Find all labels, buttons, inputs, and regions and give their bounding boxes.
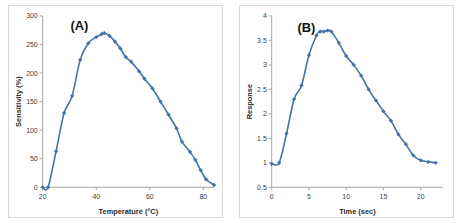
panel-b-frame: 0.511.522.533.5405101520Time (sec)Respon… xyxy=(239,5,454,218)
y-tick-label: 0.5 xyxy=(257,184,267,191)
x-tick-label: 80 xyxy=(200,193,208,200)
x-tick-label: 10 xyxy=(342,193,350,200)
x-axis-title: Time (sec) xyxy=(339,207,376,216)
data-point-marker xyxy=(285,132,289,136)
data-point-marker xyxy=(62,111,66,115)
data-point-marker xyxy=(78,58,82,62)
x-tick-label: 20 xyxy=(39,193,47,200)
y-tick-label: 50 xyxy=(30,155,38,162)
panel-a-frame: 05010015020025030020406080Temperature (°… xyxy=(8,5,223,218)
y-tick-label: 0 xyxy=(34,184,38,191)
series-line xyxy=(43,33,214,190)
y-tick-label: 4 xyxy=(263,12,267,19)
series-line xyxy=(272,30,436,165)
y-tick-label: 3 xyxy=(263,61,267,68)
y-tick-label: 300 xyxy=(26,12,38,19)
y-tick-label: 100 xyxy=(26,127,38,134)
x-tick-label: 15 xyxy=(380,193,388,200)
y-tick-label: 1.5 xyxy=(257,135,267,142)
data-point-marker xyxy=(307,53,311,57)
y-tick-label: 200 xyxy=(26,70,38,77)
x-tick-label: 20 xyxy=(417,193,425,200)
chart-a-plot: 05010015020025030020406080Temperature (°… xyxy=(9,6,222,217)
y-tick-label: 3.5 xyxy=(257,37,267,44)
y-tick-label: 150 xyxy=(26,98,38,105)
data-point-marker xyxy=(434,161,438,165)
data-point-marker xyxy=(54,149,58,153)
y-tick-label: 1 xyxy=(263,159,267,166)
panel-label: (A) xyxy=(70,18,88,33)
x-tick-label: 40 xyxy=(92,193,100,200)
panel-a: 05010015020025030020406080Temperature (°… xyxy=(0,0,231,223)
x-tick-label: 0 xyxy=(270,193,274,200)
panel-b: 0.511.522.533.5405101520Time (sec)Respon… xyxy=(231,0,462,223)
y-tick-label: 2.5 xyxy=(257,86,267,93)
data-point-marker xyxy=(292,97,296,101)
chart-b-plot: 0.511.522.533.5405101520Time (sec)Respon… xyxy=(240,6,453,217)
data-point-marker xyxy=(322,30,326,34)
data-point-marker xyxy=(70,94,74,98)
data-point-marker xyxy=(326,29,330,33)
y-axis-title: Sensitivity (%) xyxy=(14,76,23,127)
y-tick-label: 250 xyxy=(26,41,38,48)
figure-container: 05010015020025030020406080Temperature (°… xyxy=(0,0,463,223)
data-point-marker xyxy=(426,160,430,164)
x-axis-title: Temperature (°C) xyxy=(99,207,159,216)
x-tick-label: 5 xyxy=(307,193,311,200)
x-tick-label: 60 xyxy=(146,193,154,200)
y-tick-label: 2 xyxy=(263,110,267,117)
y-axis-title: Response xyxy=(245,84,254,119)
panel-label: (B) xyxy=(297,20,315,35)
